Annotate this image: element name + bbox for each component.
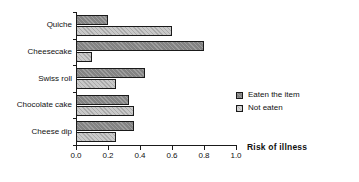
- x-axis-tick-label: 0.0: [70, 152, 81, 160]
- bar-swiss-roll-eaten: [76, 68, 145, 78]
- bar-cheesecake-eaten: [76, 41, 204, 51]
- y-axis-label-cheesecake: Cheesecake: [2, 48, 72, 56]
- y-axis-label-swiss-roll: Swiss roll: [2, 75, 72, 83]
- y-axis-label-cheese-dip: Cheese dip: [2, 128, 72, 136]
- legend-label-not-eaten: Not eaten: [248, 104, 283, 112]
- bar-quiche-eaten: [76, 15, 108, 25]
- x-axis-tick: [204, 146, 205, 150]
- bar-chocolate-cake-not-eaten: [76, 106, 134, 116]
- x-axis-tick: [172, 146, 173, 150]
- x-axis-tick-label: 0.6: [166, 152, 177, 160]
- x-axis-tick-label: 0.8: [198, 152, 209, 160]
- y-axis-label-chocolate-cake: Chocolate cake: [2, 101, 72, 109]
- plot-area: [76, 12, 236, 145]
- bar-cheese-dip-eaten: [76, 121, 134, 131]
- bar-cheese-dip-not-eaten: [76, 132, 116, 142]
- x-axis-tick: [108, 146, 109, 150]
- legend-label-eaten: Eaten the item: [248, 91, 300, 99]
- y-axis-tick: [73, 92, 77, 93]
- bar-chocolate-cake-eaten: [76, 95, 129, 105]
- y-axis-label-group: QuicheCheesecakeSwiss rollChocolate cake…: [0, 0, 72, 182]
- legend-swatch-not-eaten-icon: [236, 105, 243, 112]
- y-axis-tick: [73, 39, 77, 40]
- x-axis-tick: [140, 146, 141, 150]
- legend-item-eaten: Eaten the item: [236, 89, 300, 101]
- bar-swiss-roll-not-eaten: [76, 79, 116, 89]
- bar-cheesecake-not-eaten: [76, 52, 92, 62]
- x-axis-tick: [76, 146, 77, 150]
- y-axis-label-quiche: Quiche: [2, 21, 72, 29]
- legend-swatch-eaten-icon: [236, 92, 243, 99]
- x-axis-title: Risk of illness: [247, 142, 307, 152]
- bar-quiche-not-eaten: [76, 26, 172, 36]
- legend-item-not-eaten: Not eaten: [236, 102, 300, 114]
- chart-legend: Eaten the item Not eaten: [236, 89, 300, 115]
- x-axis-tick-label: 0.4: [134, 152, 145, 160]
- x-axis-tick-label: 1.0: [230, 152, 241, 160]
- x-axis-tick: [236, 146, 237, 150]
- y-axis-tick: [73, 12, 77, 13]
- x-axis-line: [76, 145, 237, 146]
- y-axis-tick: [73, 65, 77, 66]
- y-axis-tick: [73, 118, 77, 119]
- x-axis-tick-label: 0.2: [102, 152, 113, 160]
- risk-of-illness-bar-chart: QuicheCheesecakeSwiss rollChocolate cake…: [0, 0, 359, 182]
